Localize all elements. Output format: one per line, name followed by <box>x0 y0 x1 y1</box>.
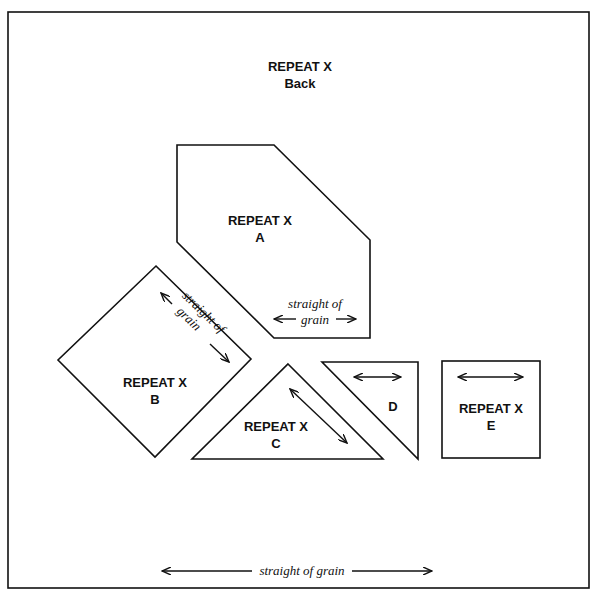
piece-c-label-line1: REPEAT X <box>244 419 308 434</box>
piece-a-grain-line2: grain <box>301 312 329 327</box>
piece-a-label-line2: A <box>255 230 265 245</box>
piece-d-label: D <box>388 399 397 414</box>
piece-a-grain-line1: straight of <box>288 296 344 311</box>
bottom-grain-label: straight of grain <box>259 563 344 578</box>
piece-b-label-line2: B <box>150 392 159 407</box>
piece-c-label-line2: C <box>271 436 281 451</box>
title-line2: Back <box>284 76 316 91</box>
piece-b-label-line1: REPEAT X <box>123 375 187 390</box>
title-line1: REPEAT X <box>268 59 332 74</box>
piece-e-label-line1: REPEAT X <box>459 401 523 416</box>
piece-a-label-line1: REPEAT X <box>228 213 292 228</box>
piece-e: REPEAT X E <box>442 361 540 458</box>
pattern-diagram: REPEAT X Back REPEAT X A straight of gra… <box>0 0 598 596</box>
piece-e-label-line2: E <box>487 418 496 433</box>
bottom-grain-indicator: straight of grain <box>162 563 432 578</box>
